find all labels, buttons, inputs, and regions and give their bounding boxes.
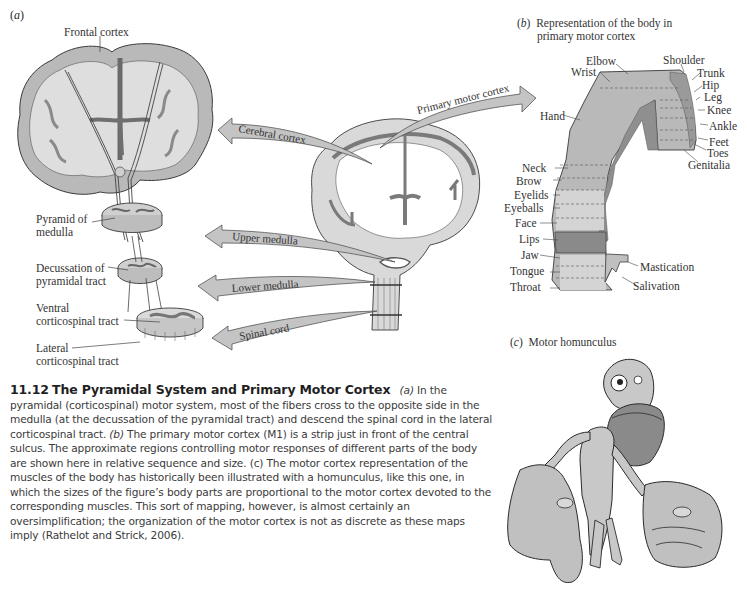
label-throat: Throat <box>510 281 541 294</box>
label-ventral-line2: corticospinal tract <box>36 315 119 328</box>
label-pyramid-line2: medulla <box>36 226 87 239</box>
figure-title: The Pyramidal System and Primary Motor C… <box>52 382 390 397</box>
panel-b-title: (b) Representation of the body in primar… <box>517 17 672 43</box>
label-face: Face <box>515 217 537 230</box>
label-frontal-cortex: Frontal cortex <box>64 26 129 39</box>
label-neck: Neck <box>522 162 546 175</box>
label-eyeballs: Eyeballs <box>504 202 544 215</box>
label-pyramid-of-medulla: Pyramid of medulla <box>36 213 87 239</box>
label-pyramid-line1: Pyramid of <box>36 213 87 226</box>
label-tongue: Tongue <box>510 265 544 278</box>
caption-text-b: The primary motor cortex (M1) is a strip… <box>10 428 491 542</box>
label-brow: Brow <box>516 175 542 188</box>
label-mastication: Mastication <box>640 261 694 274</box>
figure-number: 11.12 <box>10 382 49 397</box>
label-shoulder: Shoulder <box>663 54 705 67</box>
panel-c-title-text: Motor homunculus <box>529 336 617 348</box>
label-lateral-line2: corticospinal tract <box>36 355 119 368</box>
panel-b-title-line1: Representation of the body in <box>536 17 672 29</box>
panel-b-title-line2: primary motor cortex <box>517 30 672 43</box>
label-salivation: Salivation <box>633 280 680 293</box>
figure-caption: 11.12 The Pyramidal System and Primary M… <box>10 383 496 543</box>
panel-c-letter: c <box>514 336 519 348</box>
label-lateral-line1: Lateral <box>36 342 119 355</box>
panel-c-title: (c) Motor homunculus <box>510 336 616 348</box>
arrow-cerebral-cortex-text: Cerebral cortex <box>238 122 308 146</box>
label-ventral-line1: Ventral <box>36 302 119 315</box>
label-decussation-line2: pyramidal tract <box>36 275 106 288</box>
label-leg: Leg <box>704 91 722 104</box>
label-lateral-corticospinal-tract: Lateral corticospinal tract <box>36 342 119 368</box>
label-genitalia: Genitalia <box>688 159 730 172</box>
label-jaw: Jaw <box>521 249 539 262</box>
label-hand: Hand <box>540 110 565 123</box>
label-decussation-line1: Decussation of <box>36 262 106 275</box>
panel-b-letter: b <box>521 17 527 29</box>
panel-b-label: (b) <box>517 17 530 29</box>
caption-ref-a: (a) <box>400 384 414 396</box>
label-decussation: Decussation of pyramidal tract <box>36 262 106 288</box>
arrow-upper-medulla-text: Upper medulla <box>232 230 298 247</box>
label-wrist: Wrist <box>571 66 596 79</box>
label-ventral-corticospinal-tract: Ventral corticospinal tract <box>36 302 119 328</box>
label-eyelids: Eyelids <box>514 189 549 202</box>
label-knee: Knee <box>707 104 731 117</box>
panel-c-label: (c) <box>510 336 523 348</box>
homunculus-figure <box>508 359 722 582</box>
caption-ref-b: (b) <box>109 428 124 440</box>
label-lips: Lips <box>519 233 539 246</box>
label-ankle: Ankle <box>709 120 737 133</box>
